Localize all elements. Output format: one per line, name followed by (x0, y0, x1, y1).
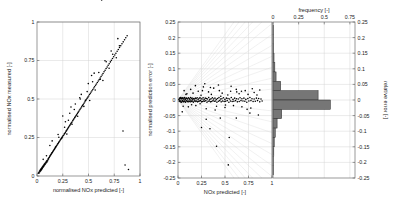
data-point (93, 72, 95, 74)
ytick-label-middle: 0.25 (165, 19, 175, 25)
data-point (240, 100, 242, 102)
data-point (203, 86, 205, 88)
data-point (249, 97, 251, 99)
ytick-label-middle: -0.2 (166, 159, 175, 165)
data-point (55, 146, 57, 148)
ytick-label-right: -0.1 (358, 128, 367, 134)
data-point (68, 119, 70, 121)
data-point (241, 90, 243, 92)
data-point (201, 127, 203, 129)
yaxis-label-middle: normalised prediction error [-] (147, 63, 153, 137)
data-point (233, 105, 235, 107)
relative-error-ray (178, 100, 262, 178)
data-point (251, 98, 253, 100)
data-point (61, 137, 63, 139)
ytick-label-right: 0.05 (358, 81, 368, 87)
data-point (96, 83, 98, 85)
data-point (222, 100, 224, 102)
data-point (88, 95, 90, 97)
data-point (199, 97, 201, 99)
data-point (218, 84, 220, 86)
relative-error-ray (178, 22, 262, 100)
data-point (88, 83, 90, 85)
ytick-label-middle: -0.25 (164, 175, 176, 181)
data-point (215, 99, 217, 101)
data-point (218, 100, 220, 102)
data-point (64, 127, 66, 129)
data-point (241, 98, 243, 100)
data-point (236, 91, 238, 93)
data-point (247, 94, 249, 96)
data-point (204, 83, 206, 85)
data-point (216, 145, 218, 147)
xtick-label-middle: 0.75 (243, 180, 253, 186)
ytick-label-middle: 0.15 (165, 50, 175, 56)
data-point (122, 130, 124, 132)
data-point (104, 60, 106, 62)
xtick-label-right: 0.75 (345, 14, 355, 20)
data-point (126, 35, 128, 37)
xtick-label-middle: 0.25 (196, 180, 206, 186)
data-point (215, 100, 217, 102)
data-point (66, 133, 68, 135)
data-point (92, 89, 94, 91)
data-point (258, 114, 260, 116)
ytick-label-right: -0.15 (358, 144, 370, 150)
data-point (205, 100, 207, 102)
data-point (220, 95, 222, 97)
xaxis-label-middle: NOx predicted [-] (204, 189, 247, 195)
data-point (94, 86, 96, 88)
data-point (122, 41, 124, 43)
xtick-label-middle: 0.5 (221, 180, 228, 186)
data-point (221, 92, 223, 94)
data-point (102, 80, 104, 82)
data-point (207, 98, 209, 100)
data-point (225, 104, 227, 106)
data-point (202, 90, 204, 92)
data-point (102, 73, 104, 75)
data-point (69, 112, 71, 114)
data-point (107, 64, 109, 66)
data-point (245, 99, 247, 101)
ytick-label-middle: -0.15 (164, 144, 176, 150)
data-point (121, 43, 123, 45)
ytick-label-right: -0.25 (358, 175, 370, 181)
relative-error-ray (178, 100, 253, 178)
data-point (112, 58, 114, 60)
data-point (100, 79, 102, 81)
data-point (113, 56, 115, 58)
data-point (237, 101, 239, 103)
data-point (221, 98, 223, 100)
data-point (213, 98, 215, 100)
data-point (196, 97, 198, 99)
data-point (111, 60, 113, 62)
data-point (236, 89, 238, 91)
data-point (201, 98, 203, 100)
data-point (89, 100, 91, 102)
data-point (42, 159, 44, 161)
data-point (200, 100, 202, 102)
data-point (224, 107, 226, 109)
data-point (246, 101, 248, 103)
figure-canvas: 00.250.50.75100.250.50.751normalised NOx… (0, 0, 393, 212)
data-point (230, 85, 232, 87)
ytick-label-middle: -0.05 (164, 113, 176, 119)
data-point (125, 37, 127, 39)
data-point (219, 90, 221, 92)
data-point (236, 117, 238, 119)
data-point (236, 98, 238, 100)
data-point (62, 115, 64, 117)
data-point (214, 109, 216, 111)
data-point (237, 98, 239, 100)
data-point (219, 100, 221, 102)
data-point (252, 101, 254, 103)
histogram-bar (273, 72, 276, 81)
data-point (200, 95, 202, 97)
data-point (256, 97, 258, 99)
data-point (94, 89, 96, 91)
data-point (226, 100, 228, 102)
data-point (238, 93, 240, 95)
relative-error-ray (178, 100, 239, 178)
xaxis-label-right: frequency [-] (298, 7, 330, 13)
data-point (110, 50, 112, 52)
